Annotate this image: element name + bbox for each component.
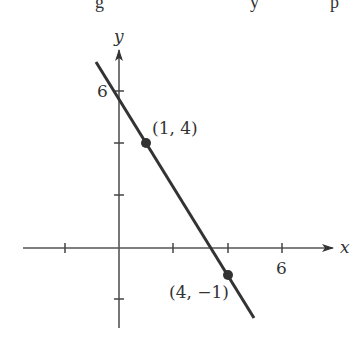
x-tick-label-6: 6 — [276, 258, 287, 278]
y-axis-label: y — [113, 26, 124, 46]
y-tick-label-6: 6 — [97, 81, 108, 101]
svg-text:g: g — [95, 0, 104, 12]
point-4-neg1 — [223, 270, 233, 280]
x-axis-label: x — [340, 237, 350, 257]
point-label-1-4: (1, 4) — [152, 118, 198, 138]
cropped-header-text: g y p — [95, 0, 339, 12]
point-1-4 — [141, 138, 151, 148]
coordinate-graph: g y p y x 6 6 (1, 4) (4, −1) — [0, 0, 364, 338]
point-label-4-neg1: (4, −1) — [169, 282, 229, 302]
svg-text:p: p — [330, 0, 339, 12]
svg-text:y: y — [250, 0, 259, 12]
